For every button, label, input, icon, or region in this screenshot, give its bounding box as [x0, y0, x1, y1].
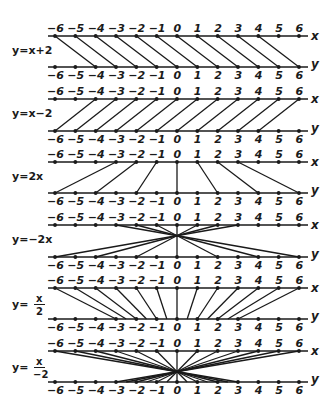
mapping-arrow: [258, 36, 299, 67]
tick-label: 0: [174, 22, 182, 35]
tick-label: −2: [128, 148, 145, 161]
bottom-axis-name: y: [311, 57, 320, 71]
fraction-denominator: 2: [36, 306, 43, 317]
tick-label: 4: [254, 148, 263, 161]
tick-label: −4: [88, 195, 105, 208]
tick-label: −3: [108, 337, 125, 350]
tick-label: 0: [174, 69, 182, 82]
mapping-arrow: [136, 288, 156, 319]
fraction-numerator: x: [36, 293, 43, 304]
tick-label: 2: [214, 133, 222, 146]
tick-label: −2: [128, 133, 145, 146]
mapping-arrow: [96, 99, 137, 131]
tick-label: 5: [275, 321, 283, 334]
tick-label: 5: [275, 133, 283, 146]
tick-label: 1: [194, 69, 202, 82]
tick-label: −1: [149, 133, 166, 146]
tick-label: 3: [234, 259, 242, 272]
tick-label: 3: [234, 22, 242, 35]
tick-label: 6: [295, 321, 303, 334]
tick-label: −5: [67, 69, 84, 82]
mapping-arrow: [116, 36, 157, 67]
bottom-axis-name: y: [311, 309, 320, 323]
mapping-arrow: [177, 36, 218, 67]
tick-label: 4: [254, 195, 263, 208]
tick-label: −1: [149, 274, 166, 287]
tick-label: −4: [88, 22, 105, 35]
function-label: y=: [12, 298, 28, 311]
tick-label: 2: [214, 22, 222, 35]
tick-label: −4: [88, 148, 105, 161]
tick-label: 4: [254, 259, 263, 272]
tick-label: 6: [295, 195, 303, 208]
bottom-axis-name: y: [311, 183, 320, 197]
tick-label: −2: [128, 22, 145, 35]
tick-label: −5: [67, 321, 84, 334]
tick-label: 3: [234, 337, 242, 350]
tick-label: 3: [234, 274, 242, 287]
mapping-arrow: [197, 162, 217, 193]
tick-label: 0: [174, 259, 182, 272]
tick-label: −4: [88, 69, 105, 82]
tick-label: −4: [88, 337, 105, 350]
tick-label: −6: [47, 259, 64, 272]
tick-label: −5: [67, 259, 84, 272]
tick-label: −6: [47, 211, 64, 224]
function-label: y=−2x: [12, 233, 52, 246]
tick-label: −3: [108, 85, 125, 98]
tick-label: 6: [295, 69, 303, 82]
tick-label: 2: [214, 195, 222, 208]
mapping-diagram-figure: −6−5−4−3−2−10123456x−6−5−4−3−2−10123456y…: [0, 0, 334, 411]
tick-label: 1: [194, 133, 202, 146]
tick-label: 0: [174, 133, 182, 146]
tick-label: −6: [47, 22, 64, 35]
tick-label: −5: [67, 337, 84, 350]
mapping-arrow: [218, 162, 259, 193]
tick-label: 6: [295, 85, 303, 98]
tick-label: 0: [174, 321, 182, 334]
tick-label: −5: [67, 133, 84, 146]
tick-label: 2: [214, 211, 222, 224]
function-label: y=2x: [12, 170, 43, 183]
tick-label: 2: [214, 69, 222, 82]
mapping-arrow: [55, 162, 116, 193]
tick-label: 5: [275, 148, 283, 161]
tick-label: −5: [67, 22, 84, 35]
tick-label: 6: [295, 22, 303, 35]
tick-label: 6: [295, 259, 303, 272]
tick-label: −5: [67, 384, 84, 397]
tick-label: −4: [88, 321, 105, 334]
tick-label: −1: [149, 85, 166, 98]
tick-label: 0: [174, 195, 182, 208]
tick-label: −3: [108, 133, 125, 146]
mapping-arrow: [238, 288, 299, 319]
tick-label: −2: [128, 384, 145, 397]
tick-label: 1: [194, 337, 202, 350]
tick-label: −2: [128, 274, 145, 287]
tick-label: 3: [234, 133, 242, 146]
tick-label: 5: [275, 274, 283, 287]
tick-label: 2: [214, 384, 222, 397]
tick-label: 1: [194, 85, 202, 98]
mapping-arrow: [55, 288, 116, 319]
tick-label: −1: [149, 259, 166, 272]
tick-label: 3: [234, 69, 242, 82]
mapping-arrow: [75, 36, 116, 67]
tick-label: −6: [47, 337, 64, 350]
tick-label: 4: [254, 337, 263, 350]
tick-label: −4: [88, 259, 105, 272]
tick-label: −3: [108, 22, 125, 35]
tick-label: −3: [108, 211, 125, 224]
tick-label: −6: [47, 384, 64, 397]
mapping-arrow: [197, 99, 238, 131]
tick-label: −6: [47, 148, 64, 161]
tick-label: 0: [174, 274, 182, 287]
tick-label: 3: [234, 195, 242, 208]
top-axis-name: x: [310, 29, 320, 43]
tick-label: 5: [275, 211, 283, 224]
tick-label: 0: [174, 85, 182, 98]
tick-label: 3: [234, 85, 242, 98]
mapping-arrow: [238, 99, 279, 131]
tick-label: 1: [194, 274, 202, 287]
function-label: y=x+2: [12, 44, 52, 57]
